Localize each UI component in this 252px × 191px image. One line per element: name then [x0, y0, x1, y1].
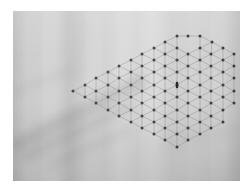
image-canvas [0, 0, 252, 191]
photo-plate [13, 11, 240, 181]
photo-vignette [13, 11, 240, 181]
